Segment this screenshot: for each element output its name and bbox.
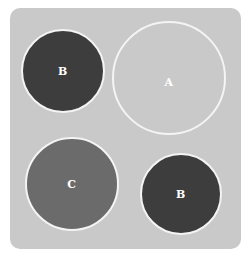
circle-label: B bbox=[176, 188, 186, 201]
circle-label: A bbox=[164, 76, 173, 89]
circle-label: C bbox=[67, 178, 76, 191]
circle-c: C bbox=[25, 137, 119, 231]
circle-b-top-left: B bbox=[21, 29, 105, 113]
circle-a: A bbox=[112, 21, 226, 135]
circle-b-bottom-right: B bbox=[140, 153, 222, 235]
circle-label: B bbox=[58, 65, 68, 78]
